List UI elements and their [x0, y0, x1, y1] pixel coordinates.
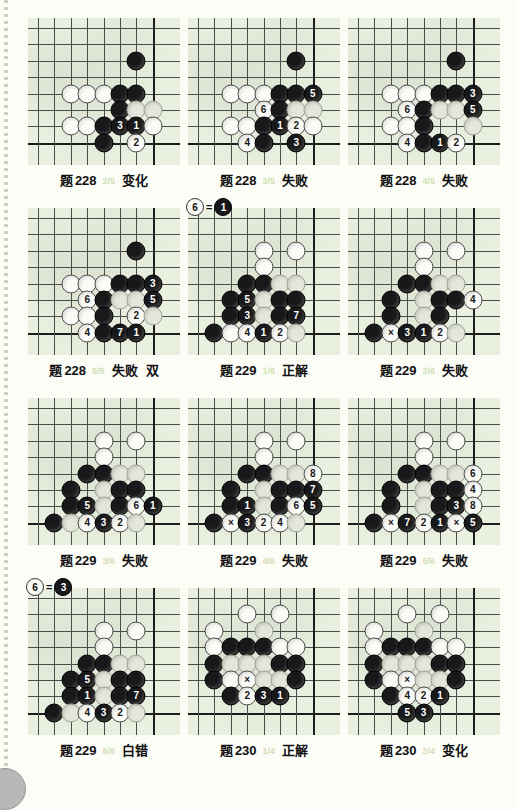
caption-problem-number: 229	[73, 553, 99, 568]
stone-label: 1	[84, 691, 90, 701]
stone-label: 2	[421, 517, 427, 527]
go-stone	[127, 431, 146, 450]
stone-label: 1	[277, 121, 283, 131]
stone-label: 7	[294, 311, 300, 321]
caption-problem-number: 229	[393, 363, 419, 378]
caption-result-label: 正解	[279, 743, 308, 758]
go-stone-numbered: 2	[127, 133, 146, 152]
caption-problem-prefix: 题	[380, 553, 393, 568]
caption-result-label: 正解	[279, 363, 308, 378]
note-stone-right: 1	[214, 198, 232, 216]
stone-label: 3	[470, 88, 476, 98]
stone-label: 4	[244, 137, 250, 147]
problem-panel: 561432题2293/6失败	[24, 398, 184, 588]
caption-result-label: 变化	[119, 173, 148, 188]
panel-caption: 题2295/6失败	[344, 550, 504, 569]
go-stone	[287, 671, 306, 690]
stone-label: 7	[404, 517, 410, 527]
stone-label: 1	[134, 121, 140, 131]
stone-label: 3	[117, 121, 123, 131]
note-equals-sign: =	[205, 201, 213, 213]
stone-label: 2	[134, 137, 140, 147]
go-board: 3652471	[28, 208, 180, 355]
go-board: ×231	[188, 588, 340, 735]
stone-label: 6	[84, 295, 90, 305]
stone-label: 4	[84, 707, 90, 717]
caption-result-label: 失败	[439, 363, 468, 378]
caption-problem-number: 229	[73, 743, 99, 758]
stone-label: 2	[277, 327, 283, 337]
panel-caption: 题2284/5失败	[344, 170, 504, 189]
problem-panel: 365412题2284/5失败	[344, 18, 504, 208]
stone-label: ×	[388, 517, 394, 527]
stone-label: 6	[261, 105, 267, 115]
caption-result-label: 失败	[109, 363, 138, 378]
caption-problem-number: 229	[233, 553, 259, 568]
go-board: 4×312	[348, 208, 500, 355]
go-stone	[287, 513, 306, 532]
go-stone	[94, 133, 113, 152]
caption-problem-prefix: 题	[49, 363, 62, 378]
go-stone-numbered: 5	[303, 497, 322, 516]
stone-label: 3	[421, 707, 427, 717]
go-board: 365412	[348, 18, 500, 165]
caption-result-label: 白错	[119, 743, 148, 758]
go-stone	[127, 703, 146, 722]
stone-label: 7	[117, 327, 123, 337]
problem-panel: 312题2282/5变化	[24, 18, 184, 208]
caption-problem-prefix: 题	[60, 553, 73, 568]
stone-label: 4	[404, 137, 410, 147]
stone-label: 5	[310, 88, 316, 98]
stone-label: 2	[437, 327, 443, 337]
caption-step-fraction: 4/5	[419, 176, 440, 186]
diagram-grid: 312题2282/5变化561243题2283/5失败365412题2284/5…	[24, 18, 502, 778]
caption-extra-label: 双	[138, 363, 159, 378]
caption-problem-number: 228	[73, 173, 99, 188]
stone-label: 3	[454, 501, 460, 511]
stone-label: ×	[404, 675, 410, 685]
stone-label: 5	[470, 517, 476, 527]
panel-caption: 题2296/6白错	[24, 740, 184, 759]
go-stone-numbered: 3	[287, 133, 306, 152]
stone-label: 3	[150, 278, 156, 288]
caption-problem-prefix: 题	[220, 363, 233, 378]
stone-label: ×	[453, 517, 459, 527]
caption-step-fraction: 2/5	[99, 176, 120, 186]
problem-panel: ×42153题2302/4变化	[344, 588, 504, 778]
note-equals-sign: =	[45, 581, 53, 593]
stone-label: 6	[404, 105, 410, 115]
stone-label: 4	[470, 295, 476, 305]
panel-caption: 题2285/5失败双	[24, 360, 184, 379]
page-perforation-margin	[4, 0, 8, 797]
caption-problem-prefix: 题	[60, 743, 73, 758]
caption-problem-prefix: 题	[380, 363, 393, 378]
stone-label: ×	[388, 327, 394, 337]
panel-caption: 题2293/6失败	[24, 550, 184, 569]
go-stone-numbered: 1	[127, 323, 146, 342]
stone-label: 1	[244, 501, 250, 511]
stone-label: 6	[294, 501, 300, 511]
problem-panel: 6438×721×5题2295/6失败	[344, 398, 504, 588]
go-stone	[127, 51, 146, 70]
stone-label: 4	[84, 517, 90, 527]
panel-caption: 题2282/5变化	[24, 170, 184, 189]
stone-label: 8	[470, 501, 476, 511]
problem-panel: 3652471题2285/5失败双	[24, 208, 184, 398]
go-stone	[463, 117, 482, 136]
stone-label: 8	[310, 468, 316, 478]
go-stone	[127, 621, 146, 640]
stone-label: 5	[84, 501, 90, 511]
caption-problem-prefix: 题	[220, 743, 233, 758]
problem-panel: 6=3517432题2296/6白错	[24, 588, 184, 778]
caption-problem-number: 229	[233, 363, 259, 378]
go-stone	[127, 513, 146, 532]
caption-step-fraction: 2/4	[419, 746, 440, 756]
stone-label: 7	[310, 485, 316, 495]
note-stone-left: 6	[26, 578, 44, 596]
page-number-badge	[0, 768, 26, 810]
stone-label: ×	[228, 517, 234, 527]
stone-label: 2	[117, 517, 123, 527]
move-equivalence-note: 6=3	[26, 578, 72, 596]
go-stone-numbered: 3	[414, 703, 433, 722]
panel-caption: 题2283/5失败	[184, 170, 344, 189]
